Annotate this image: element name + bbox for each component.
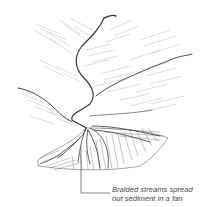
caption-line-1: Braided streams spread <box>112 185 193 194</box>
caption-line-2: out sediment in a fan <box>112 194 193 203</box>
fan-caption: Braided streams spread out sediment in a… <box>112 185 193 203</box>
fan-outline <box>38 128 168 170</box>
label-leader-line <box>81 148 110 193</box>
braided-distributaries <box>40 126 160 168</box>
alluvial-fan-sketch <box>0 0 203 207</box>
hillside-hatching <box>18 18 184 126</box>
main-stream <box>18 15 192 128</box>
fan-sediment-hatching <box>40 128 164 170</box>
